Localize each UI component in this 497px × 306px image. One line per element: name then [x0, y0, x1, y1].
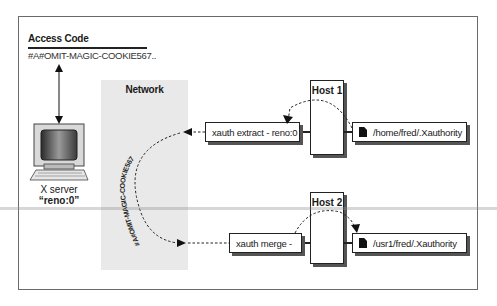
scan-artifact-line — [0, 207, 497, 210]
flow-arrows: #A#OMIT-MAGIC-COOKIE567 — [0, 0, 497, 306]
